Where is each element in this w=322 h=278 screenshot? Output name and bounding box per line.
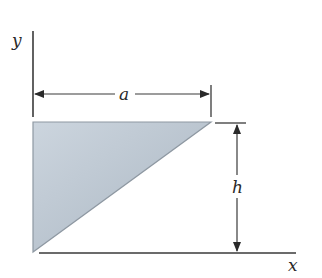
y-axis-label: y xyxy=(11,30,22,50)
x-axis-label: x xyxy=(288,255,298,275)
width-dim-label: a xyxy=(119,84,129,104)
height-dim-label: h xyxy=(232,177,243,197)
triangle-diagram: y x a h xyxy=(0,0,322,278)
shaded-triangle xyxy=(33,122,211,252)
